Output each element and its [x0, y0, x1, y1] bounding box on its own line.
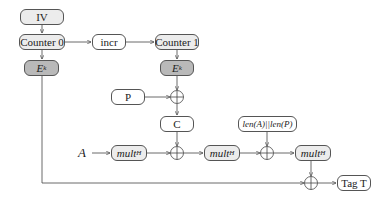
mult3-box: multH: [295, 145, 331, 161]
tag-box: Tag T: [337, 175, 371, 191]
ek0-label: E: [37, 62, 44, 74]
counter1-label: Counter 1: [155, 36, 199, 48]
mult2-box: multH: [204, 145, 240, 161]
tag-label: Tag T: [341, 177, 367, 189]
ek1-box: Ek: [160, 60, 194, 76]
plaintext-label: P: [125, 91, 131, 103]
ciphertext-label: C: [173, 118, 180, 130]
plaintext-box: P: [111, 89, 145, 105]
counter1-box: Counter 1: [155, 34, 199, 50]
ciphertext-box: C: [160, 116, 194, 132]
mult3-sub: H: [320, 149, 325, 157]
lengths-box: len(A)||len(P): [238, 116, 297, 132]
ek1-label: E: [172, 62, 179, 74]
iv-box: IV: [20, 9, 64, 25]
incr-box: incr: [92, 34, 126, 50]
mult1-sub: H: [136, 149, 141, 157]
incr-label: incr: [100, 36, 117, 48]
mult1-box: multH: [111, 145, 147, 161]
counter0-box: Counter 0: [19, 34, 65, 50]
mult1-label: mult: [117, 147, 137, 159]
mult2-sub: H: [229, 149, 234, 157]
ek0-sub: k: [43, 64, 46, 72]
connector-arrows: [0, 0, 390, 202]
mult2-label: mult: [210, 147, 230, 159]
lengths-label: len(A)||len(P): [243, 119, 293, 129]
mult3-label: mult: [301, 147, 321, 159]
ek0-box: Ek: [24, 60, 59, 76]
xor-icons: [171, 91, 318, 190]
iv-label: IV: [36, 11, 48, 23]
counter0-label: Counter 0: [20, 36, 64, 48]
aad-label: A: [78, 145, 86, 161]
ek1-sub: k: [179, 64, 182, 72]
